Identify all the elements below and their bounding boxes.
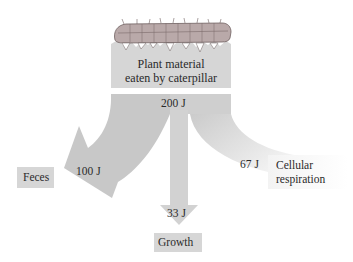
feces-label: Feces [23,171,49,184]
respiration-energy-label: 67 J [240,158,259,171]
energy-flow-diagram [0,0,353,262]
plant-label-line1: Plant material [111,57,231,71]
respiration-label-line1: Cellular [276,159,313,172]
feces-energy-label: 100 J [76,165,101,178]
input-energy-label: 200 J [161,97,186,110]
growth-energy-label: 33 J [167,207,186,220]
growth-label: Growth [158,236,193,249]
feces-flow-arrow [64,94,170,198]
plant-label-line2: eaten by caterpillar [111,71,231,85]
plant-material-label: Plant material eaten by caterpillar [111,57,231,85]
respiration-label-line2: respiration [276,173,325,186]
